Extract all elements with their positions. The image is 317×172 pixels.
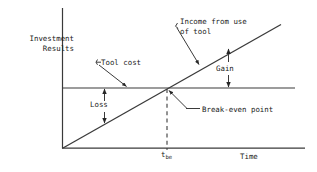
income-label: Income from use of tool [180,17,247,36]
chart-canvas [0,0,317,172]
tool-cost-label: Tool cost [101,58,141,68]
gain-label: Gain [216,64,234,74]
break-even-chart-figure: Investment Results Tool cost Income from… [0,0,317,172]
break-even-point-label: Break-even point [202,105,273,115]
t-be-subscript: be [165,154,172,160]
income-leader [176,23,179,28]
break-even-leader-arrow [169,91,187,109]
x-axis-label: Time [240,152,258,162]
tool-cost-leader-arrow [99,65,127,87]
y-axis-label: Investment Results [8,34,74,53]
t-be-tick-label: tbe [161,150,172,161]
income-line [63,25,281,149]
loss-label: Loss [90,100,108,110]
